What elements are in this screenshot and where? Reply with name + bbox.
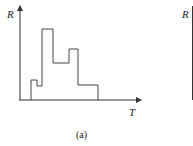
y-axis-label: R — [6, 8, 14, 20]
x-axis-label: T — [129, 106, 136, 118]
panel-a: R T (a) — [6, 6, 141, 141]
y-axis-label-b: R — [181, 8, 189, 20]
panel-caption: (a) — [76, 129, 87, 141]
panel-b-partial: R — [181, 6, 193, 100]
diagram-canvas: R T (a) R — [0, 0, 193, 146]
step-function-curve — [31, 29, 98, 100]
